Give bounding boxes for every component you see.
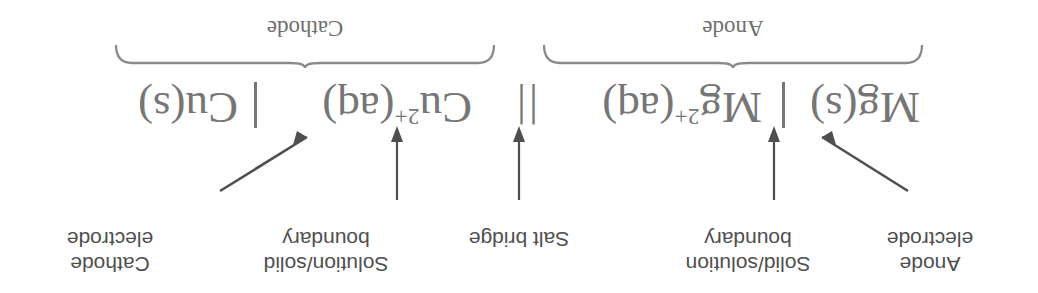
brace-anode — [540, 43, 926, 69]
label-salt-bridge: Salt bridge — [414, 227, 624, 252]
label-cathode-electrode: Cathode electrode — [20, 227, 200, 277]
arrow-solid-solution-boundary — [764, 122, 784, 200]
arrow-solution-solid-boundary — [387, 122, 407, 200]
figure-canvas: Cathode electrode Solution/solid boundar… — [0, 0, 1038, 293]
notation-left-half-electrode: Cu(s) — [138, 83, 238, 133]
brace-label-anode: Anode — [540, 15, 926, 41]
ion-charge-cu: 2+ — [395, 104, 420, 130]
ion-state-mg: (aq) — [602, 83, 674, 133]
arrow-cathode-electrode — [213, 122, 323, 197]
label-solid-solution-boundary: Solid/solution boundary — [643, 227, 853, 277]
ion-charge-mg: 2+ — [675, 104, 700, 130]
brace-label-cathode: Cathode — [112, 15, 498, 41]
notation-right-half-ion: Mg2+(aq) — [602, 83, 762, 133]
label-solution-solid-boundary: Solution/solid boundary — [221, 227, 431, 277]
brace-cathode — [112, 43, 498, 69]
phase-boundary-bar-left — [254, 82, 257, 128]
notation-right-half-electrode: Mg(s) — [810, 83, 920, 133]
ion-symbol-mg: Mg — [699, 83, 762, 133]
label-anode-electrode: Anode electrode — [840, 227, 1020, 277]
notation-left-half-ion: Cu2+(aq) — [322, 83, 472, 133]
ion-state-cu: (aq) — [322, 83, 394, 133]
ion-symbol-cu: Cu — [419, 83, 472, 133]
arrow-anode-electrode — [806, 122, 916, 197]
cell-notation-figure: Cathode electrode Solution/solid boundar… — [0, 0, 1038, 293]
phase-boundary-bar-right — [782, 82, 785, 128]
salt-bridge-symbol: || — [514, 83, 538, 133]
arrow-salt-bridge — [509, 122, 529, 200]
